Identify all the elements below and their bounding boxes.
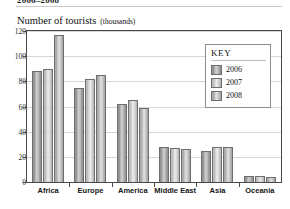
- x-label-middle-east: Middle East: [154, 186, 196, 195]
- bar-africa-2006: [32, 71, 42, 182]
- bar-middle-east-2007: [170, 148, 180, 182]
- legend-entry-2007: 2007: [211, 77, 266, 88]
- x-label-america: America: [112, 186, 154, 195]
- legend-swatch-2006: [211, 65, 222, 75]
- legend-label-2006: 2006: [226, 65, 242, 74]
- chart-title-units: (thousands): [100, 17, 135, 26]
- header-divider: [16, 6, 282, 7]
- x-label-oceania: Oceania: [239, 186, 281, 195]
- y-axis: 020406080100120: [0, 30, 26, 183]
- bar-oceania-2006: [244, 176, 254, 182]
- chart-title-main: Number of tourists: [17, 15, 96, 26]
- legend-label-2007: 2007: [226, 78, 242, 87]
- x-tick-mark: [239, 183, 240, 187]
- x-tick-mark: [196, 183, 197, 187]
- legend-box: KEY 200620072008: [205, 44, 271, 108]
- bar-group-europe: [69, 31, 111, 182]
- chart-page: 2006–2008 Number of tourists (thousands)…: [0, 0, 290, 209]
- bar-asia-2007: [212, 147, 222, 182]
- x-tick-mark: [112, 183, 113, 187]
- bar-america-2008: [139, 108, 149, 182]
- bar-america-2006: [117, 104, 127, 182]
- clipped-period-title: 2006–2008: [17, 0, 59, 5]
- bar-asia-2008: [223, 147, 233, 182]
- legend-swatch-2007: [211, 78, 222, 88]
- bar-america-2007: [128, 100, 138, 182]
- legend-entries: 200620072008: [211, 64, 266, 101]
- legend-swatch-2008: [211, 91, 222, 101]
- legend-entry-2008: 2008: [211, 90, 266, 101]
- bar-oceania-2007: [255, 176, 265, 182]
- bar-africa-2008: [54, 35, 64, 182]
- x-tick-mark: [154, 183, 155, 187]
- bar-europe-2006: [74, 88, 84, 182]
- x-label-africa: Africa: [27, 186, 69, 195]
- bar-europe-2007: [85, 79, 95, 182]
- bar-europe-2008: [96, 75, 106, 182]
- bar-group-america: [112, 31, 154, 182]
- x-label-asia: Asia: [196, 186, 238, 195]
- bar-africa-2007: [43, 69, 53, 182]
- legend-entry-2006: 2006: [211, 64, 266, 75]
- x-axis-labels: AfricaEuropeAmericaMiddle EastAsiaOceani…: [27, 186, 281, 195]
- bar-group-africa: [27, 31, 69, 182]
- x-label-europe: Europe: [69, 186, 111, 195]
- bar-middle-east-2006: [159, 147, 169, 182]
- chart-title: Number of tourists (thousands): [17, 10, 135, 28]
- bar-asia-2006: [201, 151, 211, 182]
- legend-divider: [211, 60, 266, 61]
- legend-title: KEY: [211, 48, 266, 60]
- legend-label-2008: 2008: [226, 91, 242, 100]
- x-tick-mark: [69, 183, 70, 187]
- bar-middle-east-2008: [181, 149, 191, 182]
- bar-oceania-2008: [266, 177, 276, 182]
- bar-group-middle-east: [154, 31, 196, 182]
